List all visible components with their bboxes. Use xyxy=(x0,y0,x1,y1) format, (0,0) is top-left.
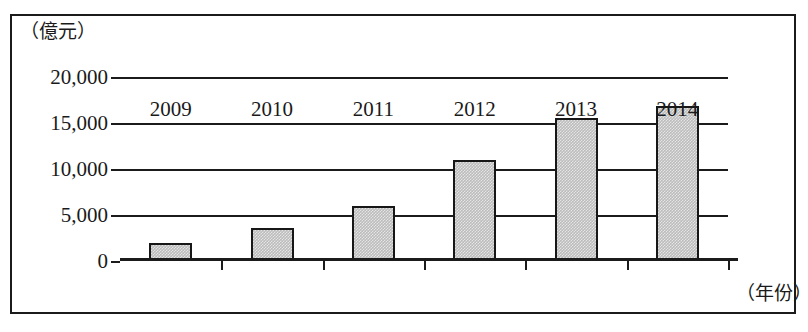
y-axis-unit-label: （億元） xyxy=(20,22,96,41)
y-axis-tick-label: 10,000 xyxy=(50,159,108,180)
y-axis-tick xyxy=(111,169,120,171)
gridline xyxy=(120,169,728,171)
x-axis-label-2011: 2011 xyxy=(353,99,394,120)
x-axis-tick xyxy=(424,261,426,270)
bar-2010 xyxy=(251,228,294,261)
gridline xyxy=(120,215,728,217)
gridline xyxy=(120,77,728,79)
x-axis-label-2014: 2014 xyxy=(656,99,698,120)
bar-2011 xyxy=(352,206,395,261)
y-axis-tick-label: 0 xyxy=(98,251,109,272)
x-axis-label-2010: 2010 xyxy=(251,99,293,120)
y-axis-tick-label: 20,000 xyxy=(50,67,108,88)
x-axis-caption-label: （年份） xyxy=(736,284,808,303)
bar-2013 xyxy=(555,118,598,261)
x-axis-tick xyxy=(323,261,325,270)
y-axis-tick xyxy=(111,261,120,263)
bar-2012 xyxy=(453,160,496,261)
x-axis-tick xyxy=(525,261,527,270)
x-axis-label-2013: 2013 xyxy=(555,99,597,120)
y-axis-tick xyxy=(111,123,120,125)
x-axis-tick xyxy=(221,261,223,270)
x-axis-label-2009: 2009 xyxy=(150,99,192,120)
y-axis-tick-label: 5,000 xyxy=(61,205,108,226)
plot-area: 05,00010,00015,00020,000 200920102011201… xyxy=(120,77,728,261)
y-axis-tick xyxy=(111,77,120,79)
chart-figure-frame: （億元） 05,00010,00015,00020,000 2009201020… xyxy=(10,14,796,314)
y-axis-tick-label: 15,000 xyxy=(50,113,108,134)
x-axis-tick xyxy=(728,261,730,270)
x-axis-label-2012: 2012 xyxy=(454,99,496,120)
x-axis-tick xyxy=(627,261,629,270)
bar-2014 xyxy=(656,106,699,261)
gridline xyxy=(120,123,728,125)
y-axis-tick xyxy=(111,215,120,217)
